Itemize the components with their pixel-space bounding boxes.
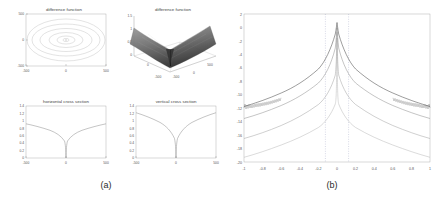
panel-b-xtick-4: -0.2 bbox=[315, 167, 321, 171]
panel-b-ytick-0: 2 bbox=[240, 13, 242, 17]
panel-b-xtick-3: -0.4 bbox=[297, 167, 303, 171]
surface-xtick-2: 0 bbox=[193, 71, 195, 75]
vcross-xtick-0: -500 bbox=[133, 161, 140, 165]
vcross-ytick-2: 1 bbox=[132, 119, 134, 123]
hcross-xtick-2: 500 bbox=[103, 161, 109, 165]
contour-xtick-0: -500 bbox=[23, 69, 30, 73]
vcross-curve bbox=[136, 113, 216, 158]
vcross-ytick-5: 0.4 bbox=[129, 141, 134, 145]
panel-b-xtick-0: -1 bbox=[242, 167, 245, 171]
surface-ytick-1: 500 bbox=[207, 63, 213, 67]
vcross-ytick-6: 0.2 bbox=[129, 149, 134, 153]
surface-title: difference function bbox=[155, 7, 191, 12]
vcross-title: vertical cross section bbox=[156, 99, 197, 104]
vcross-ytick-0: 1.4 bbox=[129, 104, 134, 108]
panel-b-xtick-2: -0.6 bbox=[278, 167, 284, 171]
panel-b-ytick-4: -6 bbox=[239, 66, 242, 70]
contour-title: difference function bbox=[46, 7, 82, 12]
panel-b-xtick-7: 0.4 bbox=[372, 167, 377, 171]
surface-ztick-1: 1 bbox=[130, 27, 132, 31]
panel-b-ytick-8: -14 bbox=[237, 120, 242, 124]
panel-b-noise bbox=[244, 98, 430, 109]
panel-b-yticks: 2 0 -2 -4 -6 -8 -10 -12 -14 -16 -18 -20 bbox=[237, 13, 242, 165]
hcross-ytick-6: 0.2 bbox=[19, 149, 24, 153]
panel-b-ytick-2: -2 bbox=[239, 40, 242, 44]
caption-a: (a) bbox=[84, 180, 128, 190]
hcross-ytick-4: 0.6 bbox=[19, 134, 24, 138]
hcross-axes bbox=[26, 106, 106, 158]
panel-b-ytick-1: 0 bbox=[240, 26, 242, 30]
panel-b-ytick-10: -18 bbox=[237, 147, 242, 151]
hcross-ytick-1: 1.2 bbox=[19, 112, 24, 116]
panel-b-xtick-6: 0.2 bbox=[353, 167, 358, 171]
panel-b-plot: 2 0 -2 -4 -6 -8 -10 -12 -14 -16 -18 -20 … bbox=[226, 4, 438, 178]
surface-xtick-0: -500 bbox=[155, 75, 162, 79]
surface-plot: difference function 1.5 1 0.5 0 bbox=[118, 4, 222, 84]
panel-b-xtick-1: -0.8 bbox=[259, 167, 265, 171]
vertical-cross-section-plot: vertical cross section 1.4 1.2 1 0.8 0.6… bbox=[112, 96, 222, 172]
contour-ytick-1: 0 bbox=[22, 38, 24, 42]
hcross-xtick-1: 0 bbox=[65, 161, 67, 165]
panel-b-xtick-9: 0.8 bbox=[409, 167, 414, 171]
hcross-xtick-0: -500 bbox=[23, 161, 30, 165]
panel-b-xtick-5: 0 bbox=[336, 167, 338, 171]
surface-xtick-1: -500 bbox=[173, 75, 180, 79]
hcross-ytick-5: 0.4 bbox=[19, 141, 24, 145]
panel-b-ytick-5: -8 bbox=[239, 80, 242, 84]
surface-ytick-0: 0 bbox=[147, 63, 149, 67]
vcross-ytick-3: 0.8 bbox=[129, 127, 134, 131]
horizontal-cross-section-plot: horizontal cross section 1.4 1.2 1 0.8 0… bbox=[2, 96, 112, 172]
hcross-ytick-7: 0 bbox=[22, 156, 24, 160]
surface-ztick-0: 1.5 bbox=[127, 14, 132, 18]
hcross-ytick-3: 0.8 bbox=[19, 127, 24, 131]
vcross-ytick-1: 1.2 bbox=[129, 112, 134, 116]
vcross-xtick-2: 500 bbox=[213, 161, 219, 165]
vcross-ytick-4: 0.6 bbox=[129, 134, 134, 138]
hcross-curve bbox=[26, 124, 106, 158]
surface-mesh bbox=[130, 26, 216, 68]
contour-rings bbox=[27, 19, 105, 61]
panel-b-ytick-6: -10 bbox=[237, 93, 242, 97]
panel-b-ytick-9: -16 bbox=[237, 134, 242, 138]
panel-b-ytick-11: -20 bbox=[237, 161, 242, 165]
panel-b-curve-4 bbox=[244, 38, 430, 157]
hcross-ytick-0: 1.4 bbox=[19, 104, 24, 108]
hcross-title: horizontal cross section bbox=[43, 99, 89, 104]
vcross-ytick-7: 0 bbox=[132, 156, 134, 160]
figure-container: difference function 500 0 -500 -500 0 50… bbox=[0, 0, 439, 202]
panel-b-xtick-10: 1 bbox=[429, 167, 431, 171]
caption-b: (b) bbox=[310, 180, 354, 190]
hcross-ytick-2: 1 bbox=[22, 119, 24, 123]
contour-plot: difference function 500 0 -500 -500 0 50… bbox=[2, 4, 110, 80]
panel-b-xtick-8: 0.6 bbox=[390, 167, 395, 171]
surface-ztick-3: 0 bbox=[130, 53, 132, 57]
panel-b-ytick-3: -4 bbox=[239, 53, 242, 57]
contour-xtick-2: 500 bbox=[103, 69, 109, 73]
panel-b-ytick-7: -12 bbox=[237, 107, 242, 111]
contour-ytick-0: 500 bbox=[18, 12, 24, 16]
contour-xtick-1: 0 bbox=[65, 69, 67, 73]
panel-b-xticks: -1 -0.8 -0.6 -0.4 -0.2 0 0.2 0.4 0.6 0.8… bbox=[242, 167, 431, 171]
contour-ytick-2: -500 bbox=[17, 64, 24, 68]
vcross-xtick-1: 0 bbox=[175, 161, 177, 165]
